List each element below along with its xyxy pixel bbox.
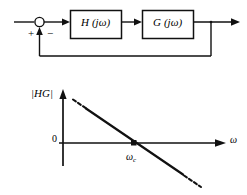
block-h-label-arg: (jω): [92, 16, 110, 28]
magnitude-curve-dashed-lower: [184, 176, 201, 188]
block-h-label: H(jω): [81, 17, 110, 28]
magnitude-curve-dashed-upper: [73, 100, 87, 110]
crossover-frequency-label-sub: c: [133, 156, 136, 164]
arrowhead-output-icon: [231, 18, 240, 25]
crossover-point-marker: [131, 140, 137, 146]
arrowhead-feedback-icon: [36, 27, 43, 35]
block-g-label-main: G: [153, 16, 161, 28]
block-g-label: G(jω): [153, 17, 182, 28]
block-h-label-main: H: [81, 16, 89, 28]
y-axis-arrowhead-icon: [59, 89, 66, 99]
plot-x-axis-label: ω: [230, 135, 237, 145]
magnitude-plot-group: [59, 89, 226, 187]
crossover-frequency-label-main: ω: [126, 151, 133, 162]
summing-plus-label: +: [28, 28, 34, 39]
block-g-label-arg: (jω): [164, 16, 182, 28]
summing-minus-label: −: [47, 28, 53, 39]
plot-y-axis-label: |HG|: [31, 88, 53, 99]
arrowhead-into-h-icon: [62, 19, 70, 26]
x-axis-arrowhead-icon: [215, 139, 226, 147]
arrowhead-into-g-icon: [134, 19, 142, 26]
summing-junction-icon: [35, 17, 44, 26]
crossover-frequency-label: ωc: [126, 152, 136, 164]
figure-canvas: + − H(jω) G(jω) |HG| 0 ωc ω: [0, 0, 247, 195]
plot-origin-label: 0: [52, 134, 57, 144]
